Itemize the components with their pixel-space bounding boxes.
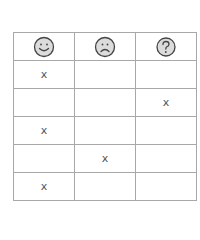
header-cell-happy — [14, 33, 75, 61]
table-cell — [136, 61, 197, 89]
table-cell — [136, 173, 197, 201]
table-row: x — [14, 89, 197, 117]
table-row: x — [14, 173, 197, 201]
table-cell: x — [14, 61, 75, 89]
table-cell: x — [136, 89, 197, 117]
table-cell — [75, 89, 136, 117]
table-row: x — [14, 61, 197, 89]
happy-face-icon — [33, 36, 55, 58]
table-cell — [14, 145, 75, 173]
question-mark-icon — [155, 36, 177, 58]
table-cell — [75, 117, 136, 145]
header-row — [14, 33, 197, 61]
x-mark: x — [102, 152, 109, 165]
header-cell-sad — [75, 33, 136, 61]
table-cell — [75, 173, 136, 201]
table-cell: x — [75, 145, 136, 173]
x-mark: x — [41, 124, 48, 137]
header-cell-question — [136, 33, 197, 61]
table-cell: x — [14, 173, 75, 201]
table-cell: x — [14, 117, 75, 145]
x-mark: x — [41, 68, 48, 81]
table-cell — [136, 145, 197, 173]
table-row: x — [14, 145, 197, 173]
x-mark: x — [163, 96, 170, 109]
x-mark: x — [41, 180, 48, 193]
table-cell — [75, 61, 136, 89]
table-cell — [136, 117, 197, 145]
table-row: x — [14, 117, 197, 145]
tally-table: x x x x x — [13, 32, 197, 201]
table-cell — [14, 89, 75, 117]
sad-face-icon — [94, 36, 116, 58]
